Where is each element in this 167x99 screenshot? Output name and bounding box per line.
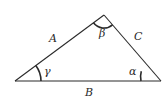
side-a-line <box>15 15 104 81</box>
angle-alpha-label: α <box>129 65 137 78</box>
angle-beta-label: β <box>98 27 105 40</box>
angle-gamma-arc <box>36 66 41 81</box>
side-b-label: B <box>84 86 93 99</box>
triangle-diagram: A C B β γ α <box>0 0 167 99</box>
angle-alpha-arc <box>141 71 142 81</box>
side-a-label: A <box>48 32 57 45</box>
angle-gamma-label: γ <box>44 65 51 78</box>
side-c-label: C <box>134 30 143 43</box>
